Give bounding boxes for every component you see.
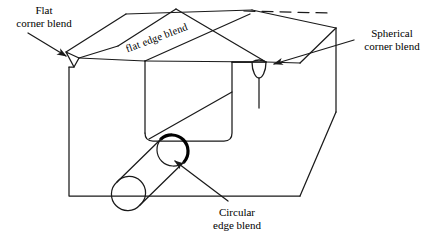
label-spherical-corner-blend: Spherical corner blend xyxy=(356,27,428,53)
spherical-corner-blend-facet xyxy=(252,60,266,78)
leader-spherical-corner-blend xyxy=(274,40,354,64)
label-spherical-corner-blend-line1: Spherical xyxy=(356,27,428,40)
flat-edge-blend-strip-left-end xyxy=(79,46,118,58)
block-front-face xyxy=(69,67,300,196)
label-circular-edge-blend: Circular edge blend xyxy=(197,206,277,232)
flat-edge-blend-strip-diagonal xyxy=(176,9,266,62)
cylinder-body-upper-side xyxy=(117,139,161,182)
label-circular-edge-blend-line2: edge blend xyxy=(197,219,277,232)
leader-flat-corner-blend xyxy=(28,33,66,56)
flat-corner-blend-facet xyxy=(66,52,79,67)
label-spherical-corner-blend-line2: corner blend xyxy=(356,40,428,53)
cylinder-far-end-arc xyxy=(161,135,188,162)
figure-canvas: Flat corner blend Spherical corner blend… xyxy=(0,0,431,249)
label-flat-corner-blend-line2: corner blend xyxy=(6,17,82,30)
cylinder-far-end-arc-back xyxy=(157,139,184,166)
label-flat-corner-blend: Flat corner blend xyxy=(6,4,82,30)
block-right-bottom-edge xyxy=(300,112,336,196)
block-front-top-edge-far-right xyxy=(266,62,300,63)
slot-bottom xyxy=(145,62,232,141)
label-flat-corner-blend-line1: Flat xyxy=(6,4,82,17)
block-right-face xyxy=(300,28,336,63)
slot-floor-diagonal xyxy=(149,92,232,139)
block-top-rear-edge xyxy=(126,10,252,14)
leader-circular-edge-blend xyxy=(175,161,228,201)
label-circular-edge-blend-line1: Circular xyxy=(197,206,277,219)
cylinder-near-end-ellipse xyxy=(111,176,145,210)
block-front-top-edge-left xyxy=(79,58,145,61)
cylinder-body-lower-side xyxy=(140,162,184,205)
